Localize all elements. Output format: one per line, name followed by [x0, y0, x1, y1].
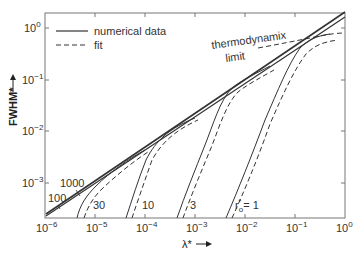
legend-label-numerical: numerical data [94, 25, 167, 37]
thermo-label-line2: limit [225, 49, 246, 64]
x-axis-arrowhead-icon [206, 241, 212, 247]
curve-r10 [126, 118, 195, 218]
label-r100: 100 [48, 192, 66, 204]
x-tick-label: 10−3 [186, 220, 208, 234]
x-axis-title: λ* [182, 238, 212, 250]
x-tick-label: 10−1 [286, 220, 308, 234]
x-tick-label: 100 [336, 220, 353, 234]
x-tick-labels: 10−6 10−5 10−4 10−3 10−2 10−1 100 [36, 220, 353, 234]
curve-r1000 [46, 12, 345, 214]
y-tick-labels: 100 10−1 10−2 10−3 [22, 20, 44, 189]
curve-r30 [77, 150, 145, 218]
label-r1: ro*= 1 [235, 197, 259, 214]
curve-r3 [177, 66, 270, 218]
y-axis-ticks [45, 28, 345, 183]
y-axis-title: FWHM* [7, 74, 19, 126]
svg-text:λ*: λ* [182, 238, 193, 250]
y-tick-label: 10−2 [22, 123, 44, 137]
x-tick-label: 10−2 [236, 220, 258, 234]
y-axis-arrowhead-icon [10, 74, 16, 80]
y-tick-label: 10−3 [22, 175, 44, 189]
y-tick-label: 100 [24, 20, 41, 34]
label-r30: 30 [93, 199, 105, 211]
annotations: thermodynamix limit 1000 100 30 10 3 ro*… [48, 29, 287, 214]
y-tick-label: 10−1 [22, 72, 44, 86]
x-tick-label: 10−6 [36, 220, 58, 234]
label-r10: 10 [142, 199, 154, 211]
x-tick-label: 10−5 [86, 220, 108, 234]
svg-text:FWHM*: FWHM* [7, 87, 19, 126]
label-r3: 3 [190, 199, 196, 211]
legend: numerical data fit [56, 25, 167, 51]
x-tick-label: 10−4 [136, 220, 158, 234]
legend-label-fit: fit [94, 39, 103, 51]
thermo-label-line1: thermodynamix [211, 29, 288, 51]
curve-r1-fit [232, 40, 338, 218]
label-r1000: 1000 [60, 177, 84, 189]
chart-figure: 10−6 10−5 10−4 10−3 10−2 10−1 100 100 10… [0, 0, 360, 253]
curves [46, 12, 345, 218]
